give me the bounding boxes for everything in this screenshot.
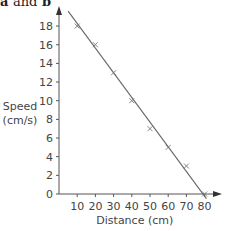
x-marker-icon	[111, 70, 116, 75]
x-marker-icon	[166, 145, 171, 150]
x-marker-icon	[93, 42, 98, 47]
y-tick-label: 4	[46, 151, 53, 164]
x-marker-icon	[184, 164, 189, 169]
ticks: 0246810121416181020304050607080	[39, 20, 212, 213]
axes	[56, 6, 222, 197]
speed-distance-chart: 0246810121416181020304050607080 Distance…	[0, 0, 225, 231]
x-tick-label: 10	[70, 200, 84, 213]
y-tick-label: 0	[46, 188, 53, 201]
x-tick-label: 20	[88, 200, 102, 213]
x-axis-arrow-icon	[213, 191, 222, 197]
y-axis-title-line2: (cm/s)	[3, 114, 38, 127]
y-tick-label: 18	[39, 20, 53, 33]
x-tick-label: 40	[125, 200, 139, 213]
x-tick-label: 50	[143, 200, 157, 213]
x-tick-label: 80	[198, 200, 212, 213]
y-tick-label: 2	[46, 169, 53, 182]
line-of-best-fit	[68, 11, 206, 199]
y-tick-label: 8	[46, 113, 53, 126]
y-axis-title-line1: Speed	[3, 100, 37, 113]
y-tick-label: 10	[39, 95, 53, 108]
y-tick-label: 12	[39, 76, 53, 89]
x-axis-title: Distance (cm)	[96, 214, 173, 227]
y-tick-label: 6	[46, 132, 53, 145]
y-tick-label: 14	[39, 57, 53, 70]
fit-line-segment	[68, 11, 206, 199]
y-tick-label: 16	[39, 39, 53, 52]
x-marker-icon	[148, 126, 153, 131]
x-tick-label: 30	[107, 200, 121, 213]
y-axis-arrow-icon	[56, 6, 62, 15]
x-tick-label: 60	[161, 200, 175, 213]
x-tick-label: 70	[179, 200, 193, 213]
